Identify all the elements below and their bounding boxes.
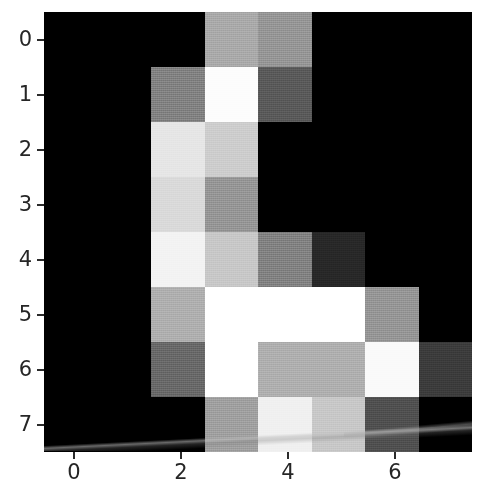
heatmap-cell <box>205 342 259 397</box>
heatmap-cell <box>365 342 419 397</box>
heatmap-cell <box>205 67 259 122</box>
heatmap-cell <box>98 287 152 342</box>
heatmap-cell <box>419 12 473 67</box>
heatmap-cell <box>44 12 98 67</box>
heatmap-cell <box>419 287 473 342</box>
xtick-mark-0 <box>73 452 75 459</box>
heatmap-cell <box>205 122 259 177</box>
heatmap-cell <box>205 177 259 232</box>
heatmap-cell <box>258 122 312 177</box>
xtick-label-4: 4 <box>273 462 303 483</box>
heatmap-cell <box>44 287 98 342</box>
heatmap-cell <box>44 232 98 287</box>
heatmap-cell <box>98 122 152 177</box>
ytick-label-6: 6 <box>6 359 32 380</box>
heatmap-cell <box>44 122 98 177</box>
heatmap-cell <box>258 12 312 67</box>
ytick-label-4: 4 <box>6 249 32 270</box>
heatmap-cell <box>98 397 152 452</box>
heatmap-cell <box>365 122 419 177</box>
heatmap-cell <box>419 342 473 397</box>
heatmap-cell <box>98 232 152 287</box>
heatmap-cell <box>258 397 312 452</box>
ytick-mark-5 <box>37 314 44 316</box>
heatmap-cell <box>44 177 98 232</box>
ytick-label-5: 5 <box>6 304 32 325</box>
figure-canvas: 0 1 2 3 4 5 6 7 0 2 4 6 <box>0 0 480 500</box>
heatmap-cell <box>98 177 152 232</box>
heatmap-cell <box>419 177 473 232</box>
heatmap-cell <box>151 342 205 397</box>
heatmap-cell <box>98 342 152 397</box>
xtick-mark-2 <box>180 452 182 459</box>
ytick-mark-4 <box>37 259 44 261</box>
heatmap-cell <box>98 12 152 67</box>
heatmap-cell <box>258 67 312 122</box>
heatmap-cell <box>312 287 366 342</box>
heatmap-cell <box>365 12 419 67</box>
heatmap-cell <box>312 397 366 452</box>
ytick-mark-3 <box>37 204 44 206</box>
heatmap-cell <box>151 397 205 452</box>
xtick-mark-4 <box>287 452 289 459</box>
ytick-mark-7 <box>37 424 44 426</box>
heatmap-cell <box>312 342 366 397</box>
heatmap-cell <box>312 12 366 67</box>
heatmap-cell <box>258 287 312 342</box>
xtick-label-2: 2 <box>166 462 196 483</box>
heatmap-cell <box>151 67 205 122</box>
heatmap-cell <box>151 122 205 177</box>
heatmap-cell <box>205 12 259 67</box>
heatmap-cell <box>365 177 419 232</box>
ytick-mark-6 <box>37 369 44 371</box>
heatmap-cell <box>258 342 312 397</box>
ytick-mark-2 <box>37 149 44 151</box>
heatmap-cell <box>312 122 366 177</box>
heatmap-cell <box>419 397 473 452</box>
xtick-label-0: 0 <box>59 462 89 483</box>
heatmap-cell <box>419 232 473 287</box>
heatmap-cell <box>258 232 312 287</box>
ytick-label-0: 0 <box>6 29 32 50</box>
heatmap-cell <box>151 232 205 287</box>
heatmap-cell <box>419 122 473 177</box>
heatmap-cell <box>312 232 366 287</box>
ytick-label-7: 7 <box>6 414 32 435</box>
ytick-label-1: 1 <box>6 84 32 105</box>
heatmap-cell <box>419 67 473 122</box>
heatmap-grid <box>44 12 472 452</box>
heatmap-cell <box>205 287 259 342</box>
heatmap-cell <box>365 397 419 452</box>
ytick-label-3: 3 <box>6 194 32 215</box>
heatmap-cell <box>151 12 205 67</box>
ytick-mark-0 <box>37 39 44 41</box>
heatmap-cell <box>365 67 419 122</box>
heatmap-cell <box>98 67 152 122</box>
ytick-mark-1 <box>37 94 44 96</box>
heatmap-cell <box>205 397 259 452</box>
heatmap-plot-area <box>44 12 472 452</box>
heatmap-cell <box>151 287 205 342</box>
heatmap-cell <box>365 287 419 342</box>
heatmap-cell <box>44 342 98 397</box>
heatmap-cell <box>365 232 419 287</box>
xtick-mark-6 <box>394 452 396 459</box>
heatmap-cell <box>151 177 205 232</box>
xtick-label-6: 6 <box>380 462 410 483</box>
heatmap-cell <box>258 177 312 232</box>
heatmap-cell <box>205 232 259 287</box>
heatmap-cell <box>312 67 366 122</box>
heatmap-cell <box>312 177 366 232</box>
heatmap-cell <box>44 67 98 122</box>
heatmap-cell <box>44 397 98 452</box>
ytick-label-2: 2 <box>6 139 32 160</box>
